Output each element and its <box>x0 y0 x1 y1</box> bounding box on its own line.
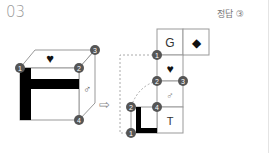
letter-t: T <box>167 115 174 127</box>
svg-text:1: 1 <box>155 52 159 59</box>
vertex-2: 2 <box>74 63 84 73</box>
net: G ◆ ♥ ♂ T 1 2 3 2 4 1 <box>120 29 209 138</box>
svg-text:3: 3 <box>93 47 97 54</box>
black-bar-vertical <box>20 68 31 120</box>
heart-icon: ♥ <box>166 62 173 76</box>
net-vertex-2-left: 2 <box>126 102 136 112</box>
diamond-icon: ◆ <box>192 36 202 50</box>
svg-text:2: 2 <box>155 78 159 85</box>
net-vertex-2-mid: 2 <box>152 76 162 86</box>
svg-text:3: 3 <box>181 78 185 85</box>
net-vertex-1-bottom: 1 <box>126 128 136 138</box>
vertex-1: 1 <box>15 63 25 73</box>
vertex-3: 3 <box>90 45 100 55</box>
svg-text:1: 1 <box>18 65 22 72</box>
svg-text:4: 4 <box>77 117 81 124</box>
svg-text:2: 2 <box>77 65 81 72</box>
net-vertex-1-top: 1 <box>152 50 162 60</box>
black-bar-horizontal <box>136 128 157 133</box>
net-vertex-4: 4 <box>152 102 162 112</box>
svg-text:4: 4 <box>155 104 159 111</box>
dashed-arc <box>131 81 157 107</box>
cube: ♥ ♂ 1 2 3 4 <box>15 45 100 125</box>
male-symbol-icon: ♂ <box>83 83 91 95</box>
arrow-right-icon: ⇨ <box>99 97 110 112</box>
male-symbol-icon: ♂ <box>166 90 174 101</box>
vertex-4: 4 <box>74 115 84 125</box>
letter-g: G <box>165 36 174 50</box>
net-vertex-3: 3 <box>178 76 188 86</box>
heart-icon: ♥ <box>46 51 54 66</box>
svg-text:2: 2 <box>129 104 133 111</box>
svg-text:1: 1 <box>129 130 133 137</box>
black-bar-horizontal <box>31 79 79 89</box>
diagram: ♥ ♂ 1 2 3 4 ⇨ G ◆ ♥ ♂ T 1 2 3 2 4 1 <box>0 0 270 153</box>
